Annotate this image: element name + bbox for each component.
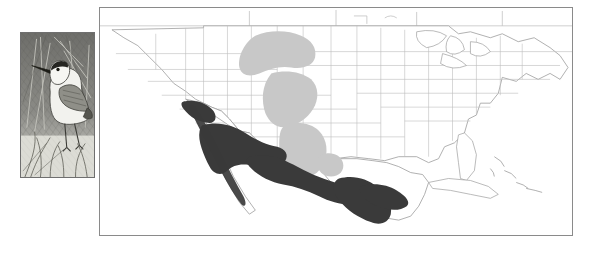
bird-eye bbox=[56, 68, 59, 71]
canada-outlines bbox=[100, 10, 572, 26]
range-map bbox=[100, 8, 572, 235]
map-panel bbox=[99, 7, 573, 236]
bird-illustration bbox=[20, 32, 95, 178]
bird-illustration-artwork bbox=[21, 33, 94, 177]
range-map-figure: breeding range wintering range bbox=[0, 0, 592, 255]
us-landmass bbox=[112, 26, 568, 163]
